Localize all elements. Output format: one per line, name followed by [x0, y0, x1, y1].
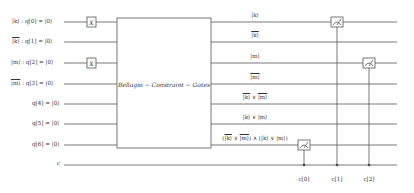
or: ∨: [250, 94, 258, 100]
measure-icon-q6: [298, 140, 310, 150]
neg-k: |k⟩: [224, 135, 231, 141]
classical-dot-c2: [368, 164, 371, 167]
label-q3: |m⟩ : q[3] = |0⟩: [11, 80, 53, 86]
and: ) ∧ (: [249, 135, 261, 141]
label-q3-prefix: |m⟩: [11, 80, 20, 86]
output-label-q5: |k⟩ ∨ |m⟩: [243, 114, 268, 120]
neg-m: |m⟩: [240, 135, 249, 141]
output-label-q3: |m⟩: [250, 74, 259, 80]
bellagio-gate-title: Bellagio − Constraint − Gates: [118, 81, 210, 88]
label-q3-name: q[3] = |0⟩: [26, 80, 53, 86]
measure-icon-q0: [331, 17, 343, 27]
label-q2: |m⟩ : q[2] = |0⟩: [11, 59, 53, 65]
label-q1: |k⟩ : q[1] = |0⟩: [12, 38, 52, 44]
or: ∨: [250, 114, 258, 120]
label-classical: c: [57, 160, 60, 166]
classical-dot-c1: [336, 164, 339, 167]
label-q4: q[4] = |0⟩: [32, 100, 59, 106]
classical-dot-c0: [303, 164, 306, 167]
label-q6: q[6] = |0⟩: [32, 141, 59, 147]
output-label-q4: |k⟩ ∨ |m⟩: [243, 94, 268, 100]
label-q0-name: q[0] = |0⟩: [25, 18, 52, 24]
output-label-q2: |m⟩: [250, 53, 259, 59]
output-label-q6: (|k⟩ ∨ |m⟩) ∧ (|k⟩ ∨ |m⟩): [222, 135, 287, 141]
m: |m⟩: [276, 135, 285, 141]
output-label-q0: |k⟩: [251, 12, 258, 18]
x-gate-q0-label: X: [89, 19, 93, 26]
x-gate-q2-label: X: [89, 60, 93, 67]
clbit-label-c2: c[2]: [363, 176, 374, 182]
label-q2-name: q[2] = |0⟩: [26, 59, 53, 65]
label-q5: q[5] = |0⟩: [32, 120, 59, 126]
label-q2-prefix: |m⟩: [11, 59, 20, 65]
circuit-canvas: [0, 0, 414, 193]
clbit-label-c1: c[1]: [331, 176, 342, 182]
measure-icon-q2: [363, 58, 375, 68]
or: ∨: [268, 135, 276, 141]
neg-m: |m⟩: [258, 94, 267, 100]
label-q1-name: q[1] = |0⟩: [25, 38, 52, 44]
rp: ): [286, 135, 288, 141]
m: |m⟩: [258, 114, 267, 120]
output-label-q1: |k⟩: [251, 32, 258, 38]
label-q0: |k⟩ : q[0] = |0⟩: [12, 18, 52, 24]
clbit-label-c0: c[0]: [298, 176, 309, 182]
